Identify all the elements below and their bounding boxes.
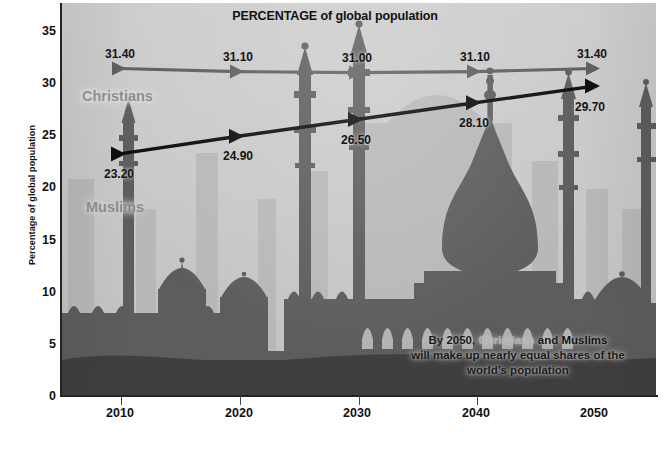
y-axis-line [60, 3, 62, 396]
series-label-muslims: Muslims [86, 199, 144, 215]
plot-area: 31.40 31.10 31.00 31.10 31.40 23.20 24.9… [62, 3, 656, 396]
x-tick-label-2020: 2020 [225, 406, 253, 420]
x-tick-label-2040: 2040 [462, 406, 490, 420]
chart-title: PERCENTAGE of global population [0, 9, 670, 23]
x-tick-label-2050: 2050 [580, 406, 608, 420]
data-label-christians-2040: 31.10 [460, 50, 490, 64]
annotation-line3: world’s population [467, 364, 569, 376]
x-tick-label-2030: 2030 [343, 406, 371, 420]
annotation-line1-prefix: By 2050, [429, 334, 479, 346]
annotation-by-2050: By 2050, Christians and Muslims will mak… [398, 333, 638, 378]
data-label-christians-2010: 31.40 [105, 47, 135, 61]
data-label-muslims-2050: 29.70 [575, 100, 605, 114]
data-label-christians-2050: 31.40 [577, 47, 607, 61]
y-tick-label-5: 5 [10, 337, 56, 351]
data-label-muslims-2040: 28.10 [459, 116, 489, 130]
x-tick-mark [121, 396, 122, 405]
x-tick-mark [240, 396, 241, 405]
x-tick-mark [359, 396, 360, 405]
muslims-markers [111, 79, 600, 162]
y-tick-label-35: 35 [10, 24, 56, 38]
annotation-line2: will make up nearly equal shares of the [411, 349, 624, 361]
data-label-christians-2030: 31.00 [342, 51, 372, 65]
annotation-line1-mid: and [535, 334, 562, 346]
y-tick-label-0: 0 [10, 389, 56, 403]
annotation-muslims-word: Muslims [561, 334, 607, 346]
chart-canvas: 31.40 31.10 31.00 31.10 31.40 23.20 24.9… [0, 0, 670, 455]
series-label-christians: Christians [82, 88, 153, 104]
y-axis-title: Percentage of global population [27, 75, 37, 315]
data-label-muslims-2020: 24.90 [223, 149, 253, 163]
x-tick-mark [477, 396, 478, 405]
x-tick-label-2010: 2010 [106, 406, 134, 420]
annotation-christians-word: Christians [478, 334, 534, 346]
data-label-muslims-2030: 26.50 [341, 133, 371, 147]
data-label-muslims-2010: 23.20 [104, 167, 134, 181]
data-label-christians-2020: 31.10 [223, 50, 253, 64]
